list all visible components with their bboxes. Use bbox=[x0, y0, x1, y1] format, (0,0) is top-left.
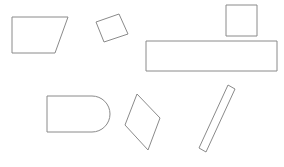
shape-canvas bbox=[0, 0, 284, 167]
wide-rectangle bbox=[146, 41, 277, 71]
shape-canvas-container bbox=[0, 0, 284, 167]
trapezoid bbox=[12, 17, 68, 53]
tilted-bar bbox=[199, 85, 235, 152]
rounded-end-rectangle bbox=[47, 96, 110, 132]
rotated-rectangle bbox=[96, 14, 128, 42]
square bbox=[226, 5, 257, 36]
kite bbox=[125, 94, 160, 150]
